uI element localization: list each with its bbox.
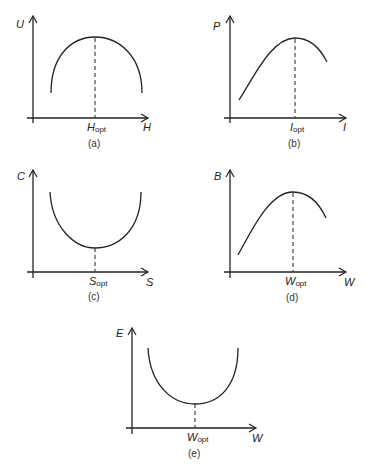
panel-caption: (d) bbox=[286, 292, 298, 303]
curve bbox=[238, 192, 326, 255]
x-axis-label: S bbox=[146, 276, 154, 288]
x-axis-label: W bbox=[252, 432, 264, 444]
panel-c: C S Sopt (c) bbox=[17, 170, 154, 302]
y-axis-label: U bbox=[16, 18, 24, 30]
optimum-label: Wopt bbox=[187, 431, 209, 444]
y-axis-label: P bbox=[213, 20, 221, 32]
x-axis-label: I bbox=[343, 121, 346, 133]
x-axis-label: H bbox=[143, 121, 151, 133]
curve bbox=[50, 192, 141, 248]
panel-caption: (a) bbox=[88, 138, 100, 149]
panel-d: B W Wopt (d) bbox=[214, 170, 356, 303]
curve bbox=[239, 38, 327, 100]
optimum-label: Iopt bbox=[290, 121, 305, 134]
y-axis-label: C bbox=[17, 170, 25, 182]
curve bbox=[51, 37, 142, 93]
optimum-label: Sopt bbox=[89, 275, 108, 288]
curve bbox=[148, 348, 238, 404]
y-axis-label: E bbox=[116, 327, 124, 339]
panel-caption: (e) bbox=[188, 448, 200, 459]
y-axis-label: B bbox=[214, 170, 221, 182]
panel-e: E W Wopt (e) bbox=[116, 327, 264, 459]
optimum-label: Hopt bbox=[87, 121, 107, 134]
x-axis-label: W bbox=[344, 276, 356, 288]
panel-caption: (c) bbox=[88, 291, 100, 302]
panel-b: P I Iopt (b) bbox=[213, 16, 346, 149]
optimum-curves-figure: U H Hopt (a) P I Iopt (b) C S Sopt (c) B… bbox=[0, 0, 366, 470]
panel-a: U H Hopt (a) bbox=[16, 16, 151, 149]
optimum-label: Wopt bbox=[285, 275, 307, 288]
panel-caption: (b) bbox=[288, 138, 300, 149]
